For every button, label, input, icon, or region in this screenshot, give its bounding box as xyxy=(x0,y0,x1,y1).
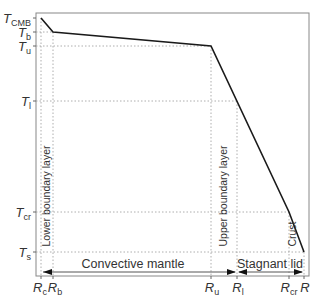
x-label-R-cr: Rcr xyxy=(281,280,298,297)
vertical-guides xyxy=(41,18,304,276)
arrowhead-left-convective xyxy=(43,269,52,275)
upper-boundary-layer-label: Upper boundary layer xyxy=(217,145,229,246)
lower-boundary-layer-label: Lower boundary layer xyxy=(40,145,52,246)
x-label-R-b: Rb xyxy=(48,280,62,297)
x-label-R-u: Ru xyxy=(205,280,219,297)
x-label-R-l: Rl xyxy=(232,280,243,297)
x-label-R: R xyxy=(300,280,309,295)
y-label-T-CMB: TCMB xyxy=(3,11,31,28)
convective-mantle-label: Convective mantle xyxy=(82,257,185,271)
horizontal-guides xyxy=(36,32,304,252)
stagnant-lid-label: Stagnant lid xyxy=(237,257,303,271)
x-label-R-c: Rc xyxy=(33,280,47,297)
plot-frame xyxy=(36,13,309,276)
arrowhead-right-convective xyxy=(227,269,236,275)
y-label-T-l: Tl xyxy=(21,94,31,111)
temperature-profile-line xyxy=(41,18,304,252)
y-label-T-cr: Tcr xyxy=(16,205,31,222)
axis-ticks xyxy=(33,18,304,279)
temperature-profile-diagram: Convective mantle Stagnant lid Lower bou… xyxy=(0,0,322,300)
y-label-T-s: Ts xyxy=(19,245,32,262)
crust-label: Crust xyxy=(286,221,298,246)
